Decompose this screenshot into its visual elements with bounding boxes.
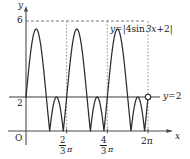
line-equation-label: y=2 — [163, 92, 181, 101]
graph-figure: y x O 6 2 2 3 π 4 3 π 2π y=|4sin 3x+2| y… — [0, 0, 190, 159]
fraction-numerator: 4 — [100, 136, 107, 145]
equation-argument: 3x — [146, 24, 157, 34]
line-equation-rhs: 2 — [176, 91, 182, 101]
fraction-numerator: 2 — [59, 136, 66, 145]
line-equation-equals: = — [168, 91, 176, 101]
curve-equation-label: y=|4sin 3x+2| — [110, 25, 173, 34]
origin-label: O — [15, 134, 22, 143]
y-tick-label-2: 2 — [17, 99, 23, 108]
pi-symbol: π — [108, 145, 113, 155]
x-tick-label-2pi: 2π — [141, 137, 153, 146]
x-axis-arrow — [167, 129, 173, 133]
y-axis-label: y — [18, 1, 23, 10]
equation-plus: + — [156, 24, 164, 34]
curve-abs-4sin3x-plus-2 — [26, 29, 148, 131]
fraction-denominator: 3 — [59, 146, 66, 155]
equation-bar-close: | — [170, 24, 173, 34]
x-tick-label-2pi-over-3: 2 3 π — [59, 136, 72, 155]
x-tick-label-4pi-over-3: 4 3 π — [100, 136, 113, 155]
equation-function: sin — [131, 24, 144, 34]
pi-symbol: π — [67, 145, 72, 155]
y-axis-arrow — [24, 6, 28, 12]
equation-equals: = — [115, 24, 123, 34]
x-axis-label: x — [175, 132, 180, 141]
fraction-denominator: 3 — [100, 146, 107, 155]
y-tick-label-6: 6 — [17, 16, 23, 25]
open-circle-marker — [145, 94, 150, 99]
